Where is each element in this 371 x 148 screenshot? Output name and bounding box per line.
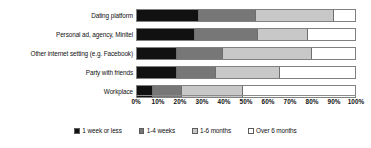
x-tick-label: 20% xyxy=(174,97,187,106)
x-tick-label: 50% xyxy=(240,97,253,106)
legend-item: 1-4 weeks xyxy=(139,127,175,135)
x-axis-line xyxy=(136,95,356,96)
legend-label: 1 week or less xyxy=(82,127,121,135)
bar-row: Party with friends xyxy=(0,63,371,82)
bar-track xyxy=(136,9,356,22)
x-axis: 0%10%20%30%40%50%60%70%80%90%100% xyxy=(136,95,358,109)
bar-segment xyxy=(279,67,355,78)
chart-legend: 1 week or less1-4 weeks1-6 monthsOver 6 … xyxy=(0,127,371,135)
bar-segment xyxy=(257,29,307,40)
legend-label: 1-4 weeks xyxy=(147,127,175,135)
bar-segment xyxy=(137,67,176,78)
stacked-bar-chart: Dating platformPersonal ad, agency, Mini… xyxy=(0,0,371,148)
x-tick-label: 30% xyxy=(196,97,209,106)
bar-track xyxy=(136,47,356,60)
legend-item: Over 6 months xyxy=(248,127,297,135)
bar-segment xyxy=(137,10,198,21)
legend-swatch-icon xyxy=(139,128,145,134)
x-tick-label: 60% xyxy=(262,97,275,106)
x-tick-label: 90% xyxy=(328,97,341,106)
bar-row: Personal ad, agency, Minitel xyxy=(0,25,371,44)
bar-segment xyxy=(198,10,255,21)
legend-swatch-icon xyxy=(248,128,254,134)
bar-track xyxy=(136,28,356,41)
bar-segment xyxy=(255,10,333,21)
legend-label: 1-6 months xyxy=(200,127,231,135)
bar-segment xyxy=(311,48,355,59)
bar-row: Other internet setting (e.g. Facebook) xyxy=(0,44,371,63)
x-tick-label: 100% xyxy=(348,97,364,106)
legend-label: Over 6 months xyxy=(256,127,297,135)
bar-rows: Dating platformPersonal ad, agency, Mini… xyxy=(0,6,371,101)
bar-row: Dating platform xyxy=(0,6,371,25)
category-label: Workplace xyxy=(0,88,136,96)
category-label: Party with friends xyxy=(0,69,136,77)
category-label: Dating platform xyxy=(0,12,136,20)
bar-segment xyxy=(176,67,215,78)
legend-swatch-icon xyxy=(192,128,198,134)
bar-track xyxy=(136,66,356,79)
bar-segment xyxy=(194,29,257,40)
bar-segment xyxy=(215,67,278,78)
bar-segment xyxy=(333,10,355,21)
bar-segment xyxy=(307,29,355,40)
legend-item: 1-6 months xyxy=(192,127,231,135)
plot-area: Dating platformPersonal ad, agency, Mini… xyxy=(0,6,371,100)
x-tick-label: 10% xyxy=(152,97,165,106)
bar-segment xyxy=(222,48,311,59)
legend-swatch-icon xyxy=(74,128,80,134)
legend-item: 1 week or less xyxy=(74,127,121,135)
bar-segment xyxy=(137,48,176,59)
x-tick-label: 80% xyxy=(306,97,319,106)
x-axis-ticks: 0%10%20%30%40%50%60%70%80%90%100% xyxy=(136,97,356,108)
x-tick-label: 0% xyxy=(131,97,140,106)
category-label: Personal ad, agency, Minitel xyxy=(0,31,136,39)
x-tick-label: 70% xyxy=(284,97,297,106)
category-label: Other internet setting (e.g. Facebook) xyxy=(0,50,136,58)
bar-segment xyxy=(137,29,194,40)
x-tick-label: 40% xyxy=(218,97,231,106)
bar-segment xyxy=(176,48,222,59)
